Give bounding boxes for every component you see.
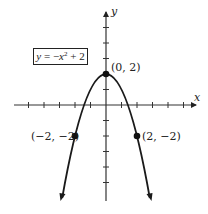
equation-equals: = − [41,50,59,62]
point-right [134,133,141,140]
x-axis-label: x [194,91,201,104]
graph-canvas: x y (0, 2) (−2, −2) (2, −2) [0,0,208,214]
point-right-label: (2, −2) [142,130,181,143]
point-left-label: (−2, −2) [31,130,79,143]
equation-label: y = −x2 + 2 [33,48,88,65]
point-vertex [103,71,110,78]
y-axis-label: y [110,5,118,18]
curve-arrow-right-icon [147,193,153,201]
equation-rest: + 2 [67,50,84,62]
point-vertex-label: (0, 2) [111,61,141,74]
curve-arrow-left-icon [60,193,66,201]
